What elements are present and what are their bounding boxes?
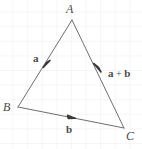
vector-label-a-plus-b: a + b bbox=[108, 68, 130, 79]
vector-triangle-figure: A B C a b a + b bbox=[0, 0, 142, 149]
vertex-label-a: A bbox=[66, 3, 73, 15]
vertex-label-c: C bbox=[126, 130, 134, 142]
vector-label-b: b bbox=[66, 124, 72, 135]
vertex-label-b: B bbox=[3, 101, 10, 113]
arrowhead-vector-b bbox=[68, 115, 76, 118]
vector-label-a-plus-b-second-term: b bbox=[124, 67, 130, 79]
vector-label-a-plus-b-operator: + bbox=[114, 68, 125, 79]
vector-label-a: a bbox=[33, 53, 39, 64]
